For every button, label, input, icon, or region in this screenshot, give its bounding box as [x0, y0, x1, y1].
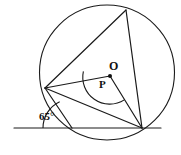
geometry-figure: O P 65°: [0, 0, 181, 155]
angle-label-p: P: [99, 79, 106, 90]
radius-center-to-bottom-right: [110, 76, 142, 128]
center-point-dot: [108, 74, 112, 78]
angle-label-65-degrees: 65°: [39, 111, 54, 122]
secant-left-to-bottom-right: [45, 88, 142, 128]
chord-top-to-bottom-right: [126, 10, 142, 128]
center-label-o: O: [109, 60, 118, 72]
main-circle: [40, 5, 175, 140]
geometry-canvas: [0, 0, 181, 155]
chord-left-to-top: [45, 10, 126, 88]
